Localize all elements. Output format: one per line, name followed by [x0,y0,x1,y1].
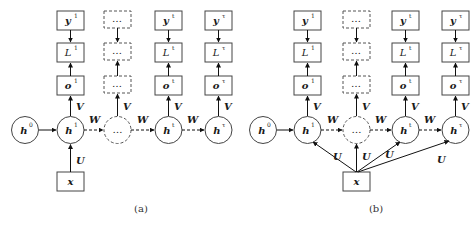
svg-text:…: … [351,45,361,56]
svg-text:o: o [400,80,407,91]
column-tau: y τ L τ o τ V [205,11,233,116]
svg-text:o: o [213,80,220,91]
svg-text:1: 1 [74,12,78,19]
svg-text:V: V [313,101,322,112]
svg-text:…: … [112,45,122,56]
svg-text:h: h [65,125,72,136]
svg-text:1: 1 [311,121,315,128]
svg-text:L: L [162,47,170,58]
svg-text:…: … [351,13,361,24]
svg-text:0: 0 [267,121,271,128]
svg-text:V: V [123,101,132,112]
svg-text:o: o [163,80,170,91]
svg-text:V: V [461,101,470,112]
svg-text:U: U [76,155,86,166]
column-ellipsis: … … … V [104,11,132,116]
svg-text:U: U [333,151,343,162]
svg-text:U: U [362,151,372,162]
svg-text:W: W [327,114,340,125]
svg-text:y: y [399,15,407,26]
svg-text:V: V [174,101,183,112]
svg-text:L: L [301,47,309,58]
svg-text:o: o [302,80,309,91]
svg-text:1: 1 [74,77,78,84]
svg-text:x: x [353,176,361,187]
svg-text:…: … [113,124,123,135]
svg-text:W: W [137,114,150,125]
svg-text:L: L [399,47,407,58]
svg-text:1: 1 [311,77,315,84]
svg-text:V: V [362,101,371,112]
svg-text:W: W [89,114,102,125]
svg-text:1: 1 [74,121,78,128]
svg-text:h: h [163,125,170,136]
y-label: y [64,15,72,26]
caption-a: (a) [134,203,148,214]
panel-b: y 1 L 1 o 1 V … … … V y t L t o t V [250,11,471,214]
svg-text:…: … [112,78,122,89]
svg-text:…: … [112,13,122,24]
svg-text:U: U [385,149,395,160]
svg-text:L: L [449,47,457,58]
svg-text:1: 1 [311,12,315,19]
svg-text:W: W [187,114,200,125]
column-1: y 1 L 1 o 1 V [57,11,85,116]
svg-text:y: y [301,15,309,26]
rnn-diagram: y 1 L 1 o 1 V … … … V [0,0,476,225]
panel-a: y 1 L 1 o 1 V … … … V [12,11,234,214]
svg-text:…: … [352,124,362,135]
L-label: L [64,47,72,58]
svg-text:h: h [213,125,220,136]
svg-text:0: 0 [29,121,33,128]
svg-text:y: y [212,15,220,26]
caption-b: (b) [369,203,383,214]
svg-text:y: y [162,15,170,26]
svg-text:…: … [351,78,361,89]
svg-text:1: 1 [74,44,78,51]
V-label: V [76,101,85,112]
svg-text:h: h [302,125,309,136]
svg-text:y: y [449,15,457,26]
svg-text:h: h [400,125,407,136]
svg-text:L: L [212,47,220,58]
svg-text:x: x [67,176,75,187]
svg-text:1: 1 [311,44,315,51]
svg-text:h: h [20,125,27,136]
svg-text:V: V [224,101,233,112]
svg-text:W: W [375,114,388,125]
svg-text:W: W [424,114,437,125]
column-t: y t L t o t V [155,11,183,116]
svg-text:U: U [437,154,447,165]
svg-text:h: h [450,125,457,136]
svg-text:V: V [411,101,420,112]
svg-text:o: o [450,80,457,91]
o-label: o [65,80,72,91]
svg-text:h: h [258,125,265,136]
